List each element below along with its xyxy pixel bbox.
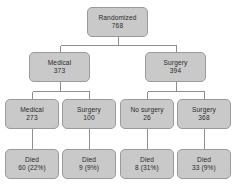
- node-value: 26: [143, 114, 151, 123]
- node-randomized[interactable]: Randomized 768: [87, 7, 148, 37]
- node-medical-received[interactable]: Medical 273: [5, 99, 59, 129]
- node-label: Medical: [48, 59, 71, 68]
- node-label: Died: [25, 156, 39, 165]
- node-died-surgery-crossover[interactable]: Died 9 (9%): [62, 149, 116, 179]
- node-value: 368: [198, 114, 209, 123]
- node-surgery-allocated[interactable]: Surgery 394: [145, 52, 206, 82]
- node-label: Died: [140, 156, 154, 165]
- node-value: 373: [54, 67, 65, 76]
- node-label: No surgery: [130, 106, 163, 115]
- node-surgery-crossover[interactable]: Surgery 100: [62, 99, 116, 129]
- node-label: Surgery: [164, 59, 188, 68]
- node-value: 60 (22%): [18, 164, 46, 173]
- node-value: 394: [170, 67, 181, 76]
- flowchart-diagram: Randomized 768 Medical 373 Surgery 394 M…: [0, 0, 236, 186]
- node-label: Died: [82, 156, 96, 165]
- node-value: 100: [83, 114, 94, 123]
- node-value: 9 (9%): [79, 164, 99, 173]
- node-medical-allocated[interactable]: Medical 373: [29, 52, 90, 82]
- node-no-surgery[interactable]: No surgery 26: [120, 99, 174, 129]
- node-died-no-surgery[interactable]: Died 8 (31%): [120, 149, 174, 179]
- node-value: 768: [112, 22, 123, 31]
- node-value: 33 (9%): [192, 164, 216, 173]
- node-value: 273: [26, 114, 37, 123]
- node-label: Randomized: [98, 14, 136, 23]
- node-label: Surgery: [77, 106, 101, 115]
- node-value: 8 (31%): [135, 164, 159, 173]
- node-died-surgery-received[interactable]: Died 33 (9%): [177, 149, 231, 179]
- node-label: Died: [197, 156, 211, 165]
- node-died-medical-received[interactable]: Died 60 (22%): [5, 149, 59, 179]
- node-surgery-received[interactable]: Surgery 368: [177, 99, 231, 129]
- node-label: Medical: [20, 106, 43, 115]
- node-label: Surgery: [192, 106, 216, 115]
